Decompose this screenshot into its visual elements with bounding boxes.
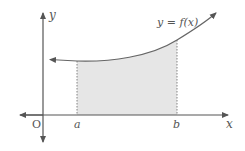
x-axis-label: x <box>226 117 233 131</box>
a-label: a <box>74 118 81 131</box>
y-axis-label: y <box>48 8 56 22</box>
b-label: b <box>173 118 180 131</box>
curve-left <box>50 60 77 62</box>
shaded-area <box>77 40 177 115</box>
curve-label: y = f(x) <box>156 16 198 29</box>
integral-diagram: y x O a b y = f(x) <box>0 0 245 151</box>
origin-label: O <box>32 118 41 131</box>
